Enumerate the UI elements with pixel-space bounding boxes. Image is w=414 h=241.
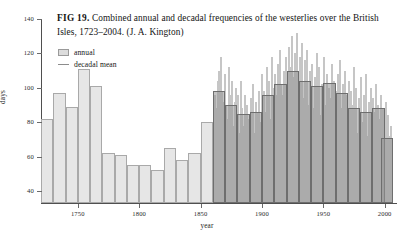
decadal-mean-bar	[139, 165, 151, 203]
decadal-mean-bar	[188, 153, 200, 203]
x-tick-label: 1750	[64, 210, 92, 217]
decadal-mean-bar	[53, 93, 65, 203]
y-axis-label: days	[0, 90, 7, 104]
decadal-mean-bar	[381, 138, 393, 203]
decadal-mean-bar	[311, 86, 323, 203]
y-tick-label: 120	[8, 49, 34, 56]
decadal-mean-bar	[225, 105, 237, 203]
x-tick-mark	[323, 204, 324, 208]
y-tick-mark	[37, 19, 42, 20]
y-tick-label: 80	[8, 118, 34, 125]
x-tick-mark	[385, 204, 386, 208]
y-tick-mark	[37, 88, 42, 89]
decadal-mean-bar	[201, 122, 213, 203]
x-axis-label: year	[0, 222, 414, 230]
decadal-mean-bar	[102, 153, 114, 203]
decadal-mean-bar	[164, 148, 176, 203]
decadal-mean-bar	[90, 86, 102, 203]
x-tick-label: 1850	[187, 210, 215, 217]
plot-area	[41, 19, 397, 203]
decadal-mean-bar	[41, 119, 53, 203]
decadal-mean-bar	[213, 91, 225, 203]
decadal-mean-bar	[176, 160, 188, 203]
y-tick-label: 60	[8, 153, 34, 160]
decadal-mean-bar	[127, 165, 139, 203]
y-tick-label: 40	[8, 187, 34, 194]
decadal-mean-bar	[299, 81, 311, 203]
decadal-mean-bar	[323, 83, 335, 203]
figure-container: FIG 19. Combined annual and decadal freq…	[0, 0, 414, 241]
y-tick-mark	[37, 157, 42, 158]
x-tick-mark	[78, 204, 79, 208]
decadal-mean-bar	[151, 170, 163, 203]
decadal-mean-bar	[115, 155, 127, 203]
x-tick-label: 1900	[248, 210, 276, 217]
decadal-mean-bar	[336, 93, 348, 203]
x-axis-line	[41, 203, 397, 204]
y-tick-mark	[37, 191, 42, 192]
decadal-mean-bar	[237, 114, 249, 203]
y-tick-label: 140	[8, 15, 34, 22]
decadal-mean-bar	[274, 84, 286, 203]
decadal-mean-bar	[250, 112, 262, 203]
y-tick-mark	[37, 122, 42, 123]
y-tick-label: 100	[8, 84, 34, 91]
decadal-mean-bar	[360, 112, 372, 203]
x-tick-label: 2000	[371, 210, 399, 217]
x-tick-label: 1950	[309, 210, 337, 217]
x-tick-mark	[201, 204, 202, 208]
decadal-mean-bar	[262, 95, 274, 203]
decadal-bars-layer	[41, 19, 397, 203]
x-tick-mark	[262, 204, 263, 208]
decadal-mean-bar	[78, 69, 90, 203]
decadal-mean-bar	[287, 71, 299, 203]
decadal-mean-bar	[348, 108, 360, 203]
x-tick-mark	[139, 204, 140, 208]
y-tick-mark	[37, 53, 42, 54]
x-tick-label: 1800	[125, 210, 153, 217]
decadal-mean-bar	[66, 107, 78, 203]
